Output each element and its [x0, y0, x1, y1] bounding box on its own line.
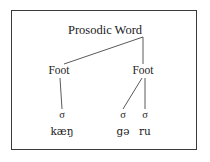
segment-label-2: gə	[117, 126, 130, 137]
edge-right-foot-to-sigma-2	[123, 78, 142, 109]
diagram-canvas: Prosodic Word Foot Foot σ σ σ kæŋ gə ru	[0, 0, 210, 162]
node-prosodic-word: Prosodic Word	[68, 24, 142, 37]
segment-label-3: ru	[139, 126, 151, 137]
edge-root-to-left-foot	[64, 37, 143, 64]
node-sigma-3: σ	[142, 110, 148, 121]
node-foot-left: Foot	[48, 65, 69, 77]
node-foot-right: Foot	[132, 65, 153, 77]
node-sigma-2: σ	[120, 110, 126, 121]
node-sigma-1: σ	[59, 110, 65, 121]
segment-label-1: kæŋ	[51, 126, 74, 137]
edge-left-foot-to-sigma-1	[60, 78, 62, 109]
